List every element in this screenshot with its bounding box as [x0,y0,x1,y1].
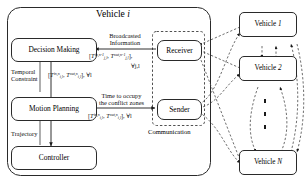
block-vehicle-1[interactable]: Vehicle 1 [239,12,297,37]
block-decision-making[interactable]: Decision Making [11,38,97,62]
block-motion-planning-label: Motion Planning [29,105,79,113]
label-occupy-line1: Time to occupy [89,92,154,99]
block-vehicle-2-label: Vehicle 2 [255,65,282,73]
formula-broadcasted-quantifier: ∀j,l [131,62,140,69]
block-receiver-label: Receiver [166,47,192,55]
title-prefix: Vehicle [96,8,127,19]
block-sender[interactable]: Sender [157,99,202,120]
link-v2-vn [250,87,258,152]
link-v1-to-receiver [199,27,240,45]
block-controller[interactable]: Controller [11,146,97,170]
link-sender-to-v1 [199,33,240,104]
block-receiver[interactable]: Receiver [157,40,202,61]
vertical-ellipsis-icon [263,99,267,129]
label-temporal-constraint: Temporal Constraint [11,68,45,82]
block-controller-label: Controller [39,154,69,162]
link-sender-to-v2 [199,74,240,108]
title-index: i [127,8,130,19]
label-temporal-line2: Constraint [11,75,45,82]
label-broadcasted-line2: Information [96,39,154,46]
link-vn-to-receiver [199,55,240,160]
label-time-to-occupy: Time to occupy the conflict zones [89,92,154,106]
link-v2-to-receiver [199,50,240,68]
block-vehicle-n-label: Vehicle N [254,159,282,167]
page-title: Vehicle i [78,8,148,19]
block-sender-label: Sender [169,106,190,114]
block-motion-planning[interactable]: Motion Planning [11,97,97,121]
formula-temporal-constraint: [Tin,ni,l, Tout,ni,l], ∀l [48,71,92,79]
label-communication: Communication [148,128,191,135]
formula-occupy: [Tin,ni,l, Tout,ni,l], ∀l [88,112,132,120]
diagram-canvas: Vehicle i Decision Making Motion Plannin… [0,0,307,192]
label-broadcasted-line1: Broadcasted [96,32,154,39]
link-vn-v2 [280,87,287,152]
label-broadcasted-information: Broadcasted Information [96,32,154,46]
block-vehicle-1-label: Vehicle 1 [255,21,282,29]
block-vehicle-n[interactable]: Vehicle N [239,150,297,175]
link-v1-vn-right [297,44,304,152]
link-sender-to-vn [199,112,240,163]
formula-broadcasted: [Tin,n-1j,l, Tout,n-1j,l], [89,52,132,60]
block-decision-making-label: Decision Making [28,46,79,54]
label-occupy-line2: the conflict zones [89,99,154,106]
label-temporal-line1: Temporal [11,68,45,75]
label-trajectory: Trajectory [11,130,47,137]
block-vehicle-2[interactable]: Vehicle 2 [239,56,297,81]
label-trajectory-text: Trajectory [11,130,47,137]
